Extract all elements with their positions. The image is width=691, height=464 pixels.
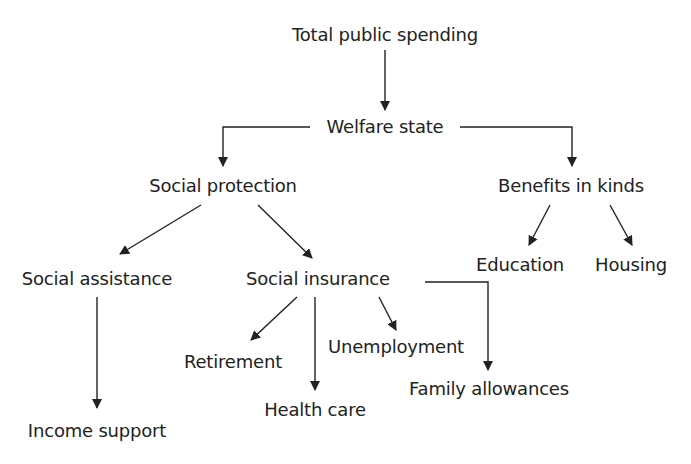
arrow-insurance-to-retirement [251, 297, 297, 340]
arrow-welfare-to-benefits [460, 127, 572, 166]
node-total-public-spending: Total public spending [292, 24, 478, 46]
connector-arrows [0, 0, 691, 464]
node-retirement: Retirement [184, 351, 282, 373]
arrow-protection-to-insurance [258, 205, 312, 258]
arrow-benefits-to-housing [610, 205, 632, 245]
node-social-insurance: Social insurance [246, 268, 390, 290]
node-income-support: Income support [28, 420, 166, 442]
arrow-benefits-to-education [529, 205, 550, 245]
welfare-spending-diagram: Total public spending Welfare state Soci… [0, 0, 691, 464]
arrow-insurance-to-unemployment [379, 297, 396, 330]
node-family-allowances: Family allowances [409, 378, 569, 400]
node-social-protection: Social protection [149, 175, 297, 197]
node-unemployment: Unemployment [328, 336, 464, 358]
arrow-protection-to-assistance [120, 205, 201, 254]
arrow-welfare-to-protection [223, 127, 310, 166]
node-welfare-state: Welfare state [327, 116, 444, 138]
node-social-assistance: Social assistance [22, 268, 172, 290]
node-benefits-in-kinds: Benefits in kinds [498, 175, 644, 197]
node-health-care: Health care [264, 399, 366, 421]
node-housing: Housing [595, 254, 667, 276]
node-education: Education [476, 254, 564, 276]
